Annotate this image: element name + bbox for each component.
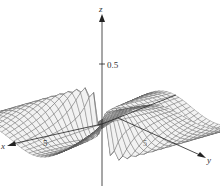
y-tick-label: 5	[143, 139, 147, 148]
y-axis-arrow-icon	[197, 152, 206, 158]
z-tick-label: 0.5	[107, 60, 119, 70]
surface-plot: z 0.5 x 5 y 5	[0, 0, 220, 193]
z-axis-label: z	[98, 4, 103, 14]
x-tick-label: 5	[43, 138, 48, 148]
y-axis-label: y	[206, 155, 211, 165]
x-axis-label: x	[0, 141, 5, 151]
z-axis-arrow-icon	[99, 14, 105, 22]
x-axis-arrow-icon	[7, 141, 16, 146]
